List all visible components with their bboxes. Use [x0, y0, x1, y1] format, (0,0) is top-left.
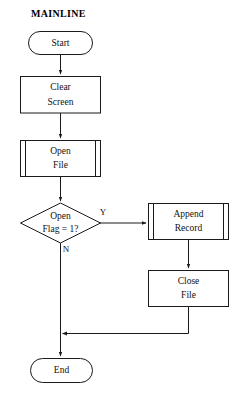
flowchart-canvas: MAINLINE Start Clear Screen — [0, 0, 236, 399]
decision-label-line1: Open — [50, 211, 71, 221]
node-clear-screen: Clear Screen — [21, 77, 101, 114]
append-record-label-line1: Append — [173, 209, 203, 219]
edge-label-no: N — [63, 244, 70, 254]
close-file-label-line1: Close — [178, 276, 200, 286]
append-record-label-line2: Record — [175, 223, 203, 233]
node-end: End — [31, 359, 93, 383]
node-start: Start — [29, 32, 93, 55]
node-open-file: Open File — [21, 141, 101, 177]
node-decision: Open Flag = 1? — [21, 203, 101, 243]
connector-close-file-to-merge — [63, 306, 189, 334]
open-file-label-line1: Open — [50, 146, 71, 156]
diagram-title: MAINLINE — [31, 8, 86, 19]
start-label: Start — [52, 38, 70, 48]
close-file-label-line2: File — [181, 290, 196, 300]
end-label: End — [54, 365, 70, 375]
edge-label-yes: Y — [100, 207, 107, 217]
node-close-file: Close File — [149, 271, 229, 307]
decision-label-line2: Flag = 1? — [43, 224, 79, 234]
clear-screen-label-line1: Clear — [50, 82, 71, 92]
clear-screen-label-line2: Screen — [48, 97, 74, 107]
node-append-record: Append Record — [149, 204, 229, 240]
decision-shape — [21, 203, 101, 243]
flowchart-diagram: MAINLINE Start Clear Screen — [0, 0, 236, 399]
open-file-label-line2: File — [53, 160, 68, 170]
